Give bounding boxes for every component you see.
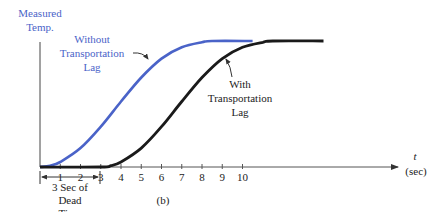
x-axis-label-unit: (sec)	[405, 165, 427, 178]
dead-time-label-line1: 3 Sec of	[52, 181, 88, 193]
dead-time-label-line3: Time	[59, 207, 82, 212]
dead-time-label-line2: Dead	[58, 194, 82, 206]
without-lag-label-line1: Without	[74, 33, 110, 45]
without-lag-pointer-arrow	[133, 53, 148, 59]
without-lag-label-line2: Transportation	[60, 47, 125, 59]
with-lag-pointer-arrow	[226, 59, 232, 77]
y-axis-label-line1: Measured	[18, 7, 62, 19]
x-tick-label: 9	[220, 171, 226, 183]
x-tick-label: 4	[118, 171, 124, 183]
y-axis-label-line2: Temp.	[26, 21, 54, 33]
x-tick-label: 10	[237, 171, 249, 183]
x-tick-label: 6	[159, 171, 165, 183]
x-tick-label: 3	[98, 171, 104, 183]
with-lag-label-line2: Transportation	[208, 92, 273, 104]
x-tick-label: 8	[199, 171, 205, 183]
x-axis-label-t: t	[413, 150, 417, 162]
with-lag-label-line1: With	[229, 78, 251, 90]
without-lag-label-line3: Lag	[83, 61, 101, 73]
with-lag-label-line3: Lag	[231, 106, 249, 118]
transportation-lag-chart: 12345678910 Measured Temp. t (sec) Witho…	[0, 0, 442, 212]
panel-label: (b)	[157, 194, 170, 207]
x-tick-label: 7	[179, 171, 185, 183]
x-tick-label: 5	[139, 171, 145, 183]
curve-with-lag	[40, 41, 324, 167]
